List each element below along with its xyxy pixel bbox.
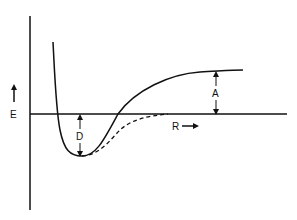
potential-energy-diagram: E D A R	[0, 0, 297, 220]
asymptote-gap-label: A	[212, 88, 219, 99]
well-depth-label: D	[76, 131, 83, 142]
distance-axis-label: R	[172, 121, 179, 132]
energy-axis-label: E	[10, 109, 17, 120]
